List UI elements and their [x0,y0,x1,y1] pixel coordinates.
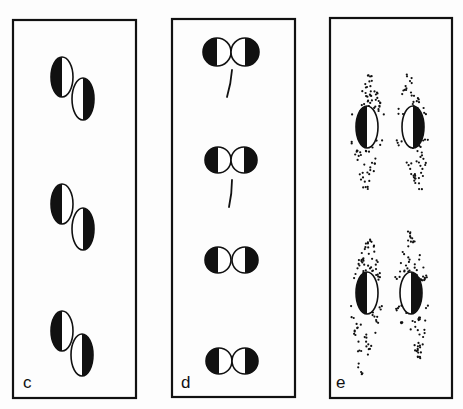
left-dark-half [356,106,367,148]
left-dark-half [51,184,62,224]
ellipse-pair [51,184,94,250]
figure-artwork [0,0,463,409]
ellipse [356,106,378,148]
circle-pair [203,38,259,97]
ellipse [400,272,422,314]
panel-label-e: e [336,374,345,391]
right-dark-half [83,78,94,120]
panel-c [13,20,136,398]
tick-mark [229,180,232,207]
right-dark-half [245,38,259,66]
left-dark-half [205,147,218,173]
left-ellipse [51,57,73,97]
right-dark-half [244,147,257,173]
left-dark-half [356,272,367,314]
right-ellipse [72,208,94,250]
right-ellipse [72,78,94,120]
right-circle [232,247,258,273]
ellipse-with-dots [394,231,429,360]
ellipse-with-dots [396,73,429,190]
right-dark-half [411,272,422,314]
panel-label-c: c [23,374,32,391]
left-circle [205,147,231,173]
circle-pair [205,247,258,273]
ellipse-pair [51,311,93,376]
circle-pair [206,348,258,374]
ellipse-pair [51,57,94,120]
left-dark-half [203,38,217,66]
left-circle [203,38,231,66]
ellipse-with-dots [351,74,385,190]
left-dark-half [51,311,62,351]
panel-label-d: d [181,374,190,391]
figure: c d e [0,0,463,409]
panel-d [172,19,295,397]
left-circle [205,247,231,273]
circle-pair [205,147,257,207]
right-dark-half [83,208,94,250]
panel-e [330,18,452,398]
left-ellipse [51,184,73,224]
right-dark-half [82,334,93,376]
left-circle [206,348,232,374]
ellipse [402,106,424,148]
ellipse [356,272,378,314]
left-dark-half [206,348,219,374]
right-circle [231,38,259,66]
right-dark-half [245,348,258,374]
right-ellipse [71,334,93,376]
right-circle [231,147,257,173]
right-circle [232,348,258,374]
left-dark-half [51,57,62,97]
right-dark-half [245,247,258,273]
left-ellipse [51,311,73,351]
tick-mark [227,70,232,97]
left-dark-half [205,247,218,273]
right-dark-half [413,106,424,148]
panel-frame-e [330,18,452,398]
ellipse-with-dots [350,239,383,376]
panel-frame-d [172,19,295,397]
